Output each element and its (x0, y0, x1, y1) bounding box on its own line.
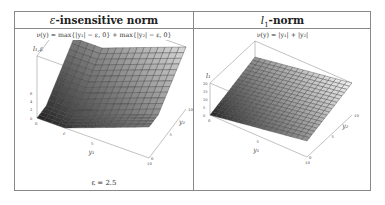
y-axis-label: y₂ (178, 118, 185, 126)
z-tick-label: 15 (203, 90, 208, 94)
z-tick-label: 2 (30, 108, 32, 112)
z-tick-label: 0 (30, 117, 33, 121)
header-eps-insensitive: ε-insensitive norm (15, 12, 193, 28)
z-tick-label: 4 (30, 100, 33, 104)
y-axis-label: y₂ (341, 122, 348, 130)
header-l1-norm: l1-norm (194, 12, 371, 28)
epsilon-value-note: ε = 2.5 (15, 179, 193, 187)
x-tick-label: 0 (208, 118, 211, 123)
x-tick-label: 0 (35, 121, 38, 126)
z-tick-label: 20 (203, 82, 208, 86)
x-axis-label: y₁ (252, 146, 259, 154)
header-text: -norm (269, 14, 305, 26)
x-tick-label: 10 (147, 161, 152, 166)
comparison-table: ε-insensitive norm l1-norm ν(y) = max{|y… (14, 11, 371, 191)
y-tick-label: 0 (151, 156, 154, 161)
z-tick-label: 0 (203, 114, 206, 118)
z-axis-label: l₁ (206, 72, 211, 80)
y-tick-label: 0 (309, 155, 312, 160)
epsilon-marker: ε (47, 103, 50, 109)
x-tick-label: ε (63, 131, 66, 136)
formula-eps-insensitive: ν(y) = max{|y₁| − ε, 0} + max{|y₂| − ε, … (15, 31, 193, 38)
z-tick-label: 10 (203, 98, 208, 102)
header-divider (15, 28, 370, 29)
surface-mesh (210, 57, 352, 141)
header-text: -insensitive norm (55, 14, 158, 26)
z-tick-label: 5 (203, 106, 206, 110)
y-tick-label: 5 (332, 134, 335, 139)
x-tick-label: 10 (305, 160, 310, 165)
z-axis-label: l₁,ε (33, 45, 44, 53)
surface-plot-l1: l₁051015200510y₁0510y₂ (194, 40, 371, 178)
x-tick-label: 5 (91, 141, 94, 146)
surface-plot-eps-insensitive: l₁,ε02460ε510y₁0510y₂ε (15, 40, 193, 178)
y-tick-label: 10 (188, 107, 193, 112)
z-tick-label: 6 (30, 92, 33, 96)
surface-mesh (37, 40, 186, 128)
y-tick-label: 10 (354, 113, 359, 118)
formula-l1: ν(y) = |y₁| + |y₂| (194, 31, 371, 38)
x-tick-label: 5 (257, 139, 260, 144)
y-tick-label: 5 (170, 132, 173, 137)
x-axis-label: y₁ (88, 148, 95, 156)
